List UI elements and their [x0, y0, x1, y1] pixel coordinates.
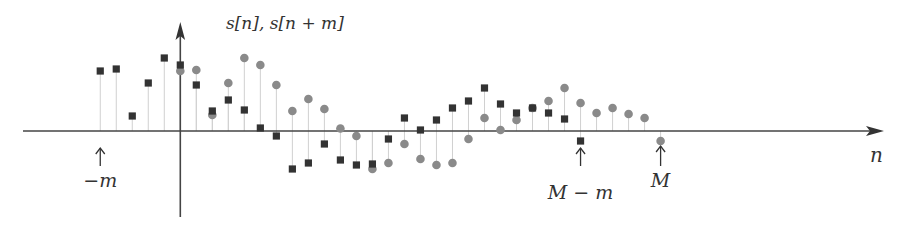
circle-marker — [304, 95, 313, 104]
square-marker — [385, 135, 392, 142]
y-axis-label: s[n], s[n + m] — [226, 13, 344, 33]
square-marker — [97, 67, 104, 74]
stem-plot: −mM − mM s[n], s[n + m] n — [0, 0, 902, 233]
square-marker — [113, 65, 120, 72]
circle-marker — [576, 99, 585, 108]
square-marker — [529, 104, 536, 111]
circle-marker — [496, 126, 505, 135]
circle-marker — [400, 140, 409, 149]
square-marker — [577, 137, 584, 144]
circle-marker — [224, 79, 233, 88]
circle-marker — [544, 97, 553, 106]
square-marker — [513, 109, 520, 116]
square-marker — [209, 107, 216, 114]
square-marker — [433, 116, 440, 123]
square-marker — [417, 126, 424, 133]
circle-marker — [640, 114, 649, 123]
circle-marker — [272, 81, 281, 90]
square-marker — [289, 165, 296, 172]
square-marker — [465, 97, 472, 104]
annotations: −mM − mM — [83, 146, 671, 203]
square-marker — [241, 106, 248, 113]
circle-marker — [656, 137, 665, 146]
circle-marker — [480, 114, 489, 123]
square-marker — [305, 159, 312, 166]
circle-marker — [560, 84, 569, 93]
square-marker — [177, 61, 184, 68]
circle-marker — [624, 110, 633, 119]
circle-marker — [288, 107, 297, 116]
circle-marker — [432, 161, 441, 170]
square-marker — [225, 96, 232, 103]
square-marker — [161, 54, 168, 61]
square-marker — [369, 160, 376, 167]
square-marker — [449, 104, 456, 111]
circle-marker — [448, 159, 457, 168]
square-marker — [545, 109, 552, 116]
circle-marker — [384, 159, 393, 168]
circle-marker — [512, 116, 521, 125]
series-s-n — [176, 54, 665, 174]
square-marker — [257, 124, 264, 131]
annotation-minus-m: −m — [83, 148, 117, 191]
square-marker — [337, 156, 344, 163]
annotation-label: M — [650, 169, 671, 191]
square-marker — [353, 161, 360, 168]
circle-marker — [592, 109, 601, 118]
square-marker — [193, 81, 200, 88]
square-marker — [401, 114, 408, 121]
circle-marker — [240, 54, 249, 63]
square-marker — [273, 132, 280, 139]
circle-marker — [336, 124, 345, 133]
square-marker — [561, 115, 568, 122]
square-marker — [129, 112, 136, 119]
circle-marker — [320, 105, 329, 114]
square-marker — [497, 100, 504, 107]
annotation-label: −m — [83, 169, 117, 191]
annotation-M: M — [650, 146, 671, 191]
square-marker — [321, 140, 328, 147]
annotation-M-minus-m: M − m — [547, 148, 613, 203]
circle-marker — [464, 135, 473, 144]
circle-marker — [416, 155, 425, 164]
circle-marker — [192, 66, 201, 75]
circle-marker — [608, 104, 617, 113]
square-marker — [145, 79, 152, 86]
circle-marker — [352, 132, 361, 141]
annotation-label: M − m — [547, 181, 613, 203]
square-marker — [481, 84, 488, 91]
circle-marker — [256, 61, 265, 70]
x-axis-label: n — [870, 143, 883, 167]
